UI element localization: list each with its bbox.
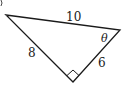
triangle-diagram: 10 8 6 θ — [0, 0, 122, 91]
right-leg-label: 6 — [98, 56, 106, 70]
cropped-label-fragment — [1, 0, 2, 6]
angle-theta-label: θ — [101, 32, 108, 45]
right-angle-marker — [67, 70, 79, 76]
left-leg-label: 8 — [28, 46, 36, 60]
triangle — [6, 15, 120, 82]
hypotenuse-label: 10 — [66, 10, 81, 24]
